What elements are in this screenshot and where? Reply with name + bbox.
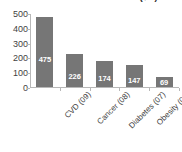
x-category-label: CVD (09) — [63, 90, 93, 120]
bar-value-label: 174 — [96, 75, 113, 83]
y-tick-label: 0 — [2, 84, 28, 93]
x-axis: CVD (09)Cancer (08)Diabetes (07)Obesity … — [30, 90, 179, 152]
bar-value-label: 226 — [66, 73, 83, 81]
bar: 475 — [36, 17, 53, 87]
bar-value-label: 69 — [156, 79, 173, 87]
bar-value-label: 475 — [36, 56, 53, 64]
bar: 147 — [126, 65, 143, 87]
y-tick-mark — [27, 44, 30, 45]
bar: 226 — [66, 54, 83, 87]
y-tick-label: 400 — [2, 24, 28, 33]
y-axis: 0100200300400500 — [2, 14, 28, 88]
y-axis-line — [30, 14, 31, 88]
y-tick-mark — [27, 73, 30, 74]
bar: 69 — [156, 77, 173, 87]
x-axis-line — [30, 87, 179, 88]
bar-value-label: 147 — [126, 77, 143, 85]
y-tick-mark — [27, 29, 30, 30]
y-tick-label: 200 — [2, 54, 28, 63]
y-tick-mark — [27, 88, 30, 89]
y-tick-label: 300 — [2, 39, 28, 48]
bar-chart: Cost of Disease in the US ($B) 010020030… — [0, 0, 182, 152]
x-tick-mark — [179, 88, 180, 91]
y-tick-label: 500 — [2, 10, 28, 19]
chart-title: Cost of Disease in the US ($B) — [0, 0, 182, 2]
y-tick-label: 100 — [2, 69, 28, 78]
y-tick-mark — [27, 14, 30, 15]
x-category-label: Cancer (08) — [95, 90, 131, 126]
bar: 174 — [96, 61, 113, 87]
y-tick-mark — [27, 58, 30, 59]
plot-area: 47522617414769 — [30, 14, 179, 88]
